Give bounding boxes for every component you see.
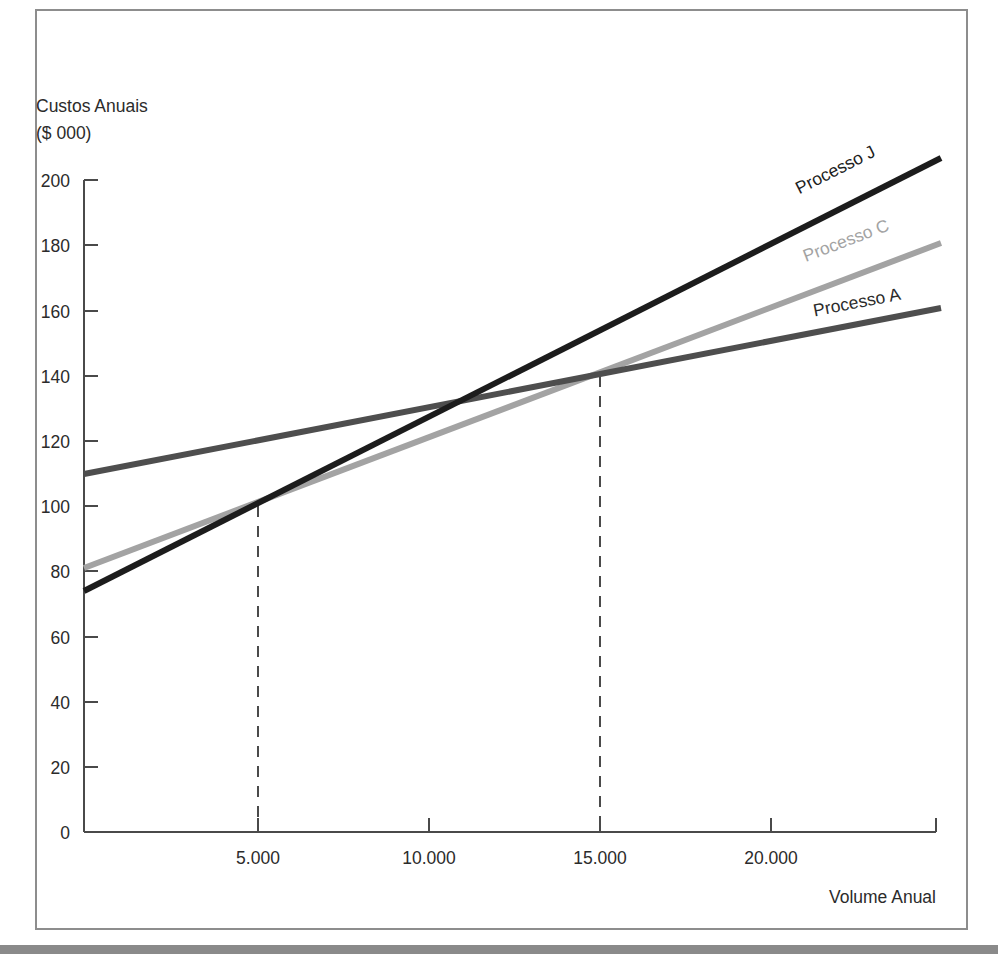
y-axis-tick-labels: 200 180 160 140 120 100 80 60 40 20 0: [41, 171, 70, 843]
y-tick-label: 160: [41, 302, 70, 322]
x-tick-label: 10.000: [402, 848, 456, 868]
y-tick-label: 200: [41, 171, 70, 191]
y-tick-label: 60: [51, 628, 71, 648]
series-line-processo-c: [84, 243, 941, 568]
y-axis-title-line1: Custos Anuais: [36, 96, 148, 116]
y-axis-ticks: [84, 180, 98, 832]
x-axis-title: Volume Anual: [829, 887, 936, 907]
bottom-bar: [0, 945, 998, 954]
series-line-processo-j: [84, 158, 941, 591]
y-tick-label: 100: [41, 497, 70, 517]
chart-canvas: Custos Anuais ($ 000) 200 180 160 140 12…: [0, 0, 998, 954]
y-tick-label: 40: [51, 693, 71, 713]
x-axis-tick-labels: 5.000 10.000 15.000 20.000: [236, 848, 798, 868]
y-axis-title-line2: ($ 000): [36, 123, 91, 143]
series-line-processo-a: [84, 308, 941, 474]
y-tick-label: 180: [41, 236, 70, 256]
x-tick-label: 5.000: [236, 848, 280, 868]
y-tick-label: 0: [60, 823, 70, 843]
y-tick-label: 120: [41, 432, 70, 452]
cost-volume-chart: Custos Anuais ($ 000) 200 180 160 140 12…: [0, 0, 998, 954]
y-tick-label: 80: [51, 562, 71, 582]
x-tick-label: 15.000: [573, 848, 627, 868]
y-tick-label: 20: [51, 758, 71, 778]
x-axis-ticks: [258, 818, 936, 832]
series-label-processo-j: Processo J: [792, 141, 878, 198]
x-tick-label: 20.000: [744, 848, 798, 868]
y-tick-label: 140: [41, 367, 70, 387]
